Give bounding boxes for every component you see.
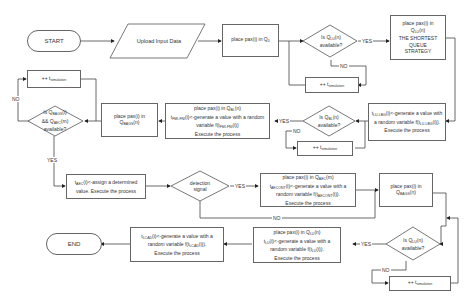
detection-signal-label: detectionsignal bbox=[180, 178, 220, 194]
upload-input-data: Upload Input Data bbox=[120, 30, 198, 52]
decision-qlu2-label: Is QLU(n)available? bbox=[393, 235, 433, 253]
increment-simulation-2: ++ tsimulation bbox=[297, 141, 353, 156]
place-pax-qbags-2: place pax(i) inQBAGS(n) bbox=[379, 173, 433, 207]
yes-label-4: YES bbox=[234, 183, 246, 189]
generate-value-lu-lbg: tLU-LBG(i)<-generate a value with a rand… bbox=[368, 103, 446, 141]
generate-value-lcad: tLCAD(i)<-generate a value with a random… bbox=[130, 227, 224, 262]
start-terminal: START bbox=[27, 30, 81, 52]
increment-simulation-3: ++ tsimulation bbox=[27, 70, 81, 88]
no-label-5: NO bbox=[381, 267, 391, 273]
place-pax-qbl: place pax(i) in QBL(n)tFMI-FNI(i)<-gener… bbox=[165, 103, 270, 139]
decision-qbl-label: Is QBL(n)available? bbox=[309, 112, 349, 130]
place-pax-q0: place pax(i) in Q0 bbox=[222, 24, 279, 57]
increment-simulation-4: ++ tsimulation bbox=[389, 276, 451, 291]
shortest-queue-strategy: place pax(i) inQLU(n)THE SHORTESTQUEUEST… bbox=[390, 15, 446, 60]
yes-label-2: YES bbox=[278, 118, 290, 124]
yes-label-1: YES bbox=[361, 38, 373, 44]
no-label-3: NO bbox=[11, 96, 21, 102]
assign-determined-value: tAEC(i)<-assign a determined value. Exec… bbox=[66, 174, 146, 199]
place-pax-qlu: place pax(i) in QLU(n)tLU(i)<-generate a… bbox=[253, 227, 341, 263]
end-terminal: END bbox=[46, 233, 102, 255]
place-pax-qaec: place pax(i) in QAEC(m)tAECONT(i)<-gener… bbox=[260, 173, 356, 207]
yes-label-3: YES bbox=[46, 157, 58, 163]
increment-simulation-1: ++ tsimulation bbox=[305, 77, 359, 93]
no-label-1: NO bbox=[339, 63, 349, 69]
yes-label-5: YES bbox=[360, 241, 372, 247]
place-pax-qbags: place pax(i) inQBAGS(n) bbox=[101, 103, 158, 137]
no-label-4: NO bbox=[272, 215, 282, 221]
decision-qlu-label: Is QLU(n)available? bbox=[310, 31, 352, 51]
no-label-2: NO bbox=[292, 128, 302, 134]
decision-bagg-label: Is QBAGS(i)&& QAEC(m)available? bbox=[33, 110, 77, 132]
